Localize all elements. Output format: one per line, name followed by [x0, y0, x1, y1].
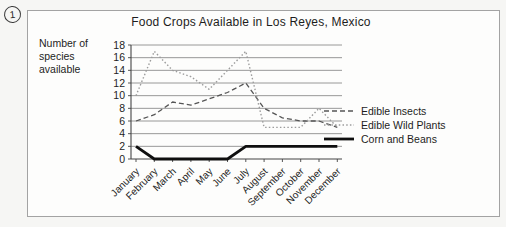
y-tick-label: 2 — [119, 140, 125, 152]
y-tick-label: 12 — [113, 77, 125, 89]
chart-svg: 024681012141618JanuaryFebruaryMarchApril… — [28, 11, 499, 216]
legend-label-corn-and-beans: Corn and Beans — [361, 133, 437, 145]
item-number-badge: 1 — [3, 5, 22, 24]
y-tick-label: 6 — [119, 115, 125, 127]
y-tick-label: 4 — [119, 127, 125, 139]
legend-label-edible-wild-plants: Edible Wild Plants — [361, 119, 446, 131]
series-line-corn-and-beans — [136, 146, 337, 159]
y-tick-label: 8 — [119, 102, 125, 114]
figure-box: Food Crops Available in Los Reyes, Mexic… — [27, 10, 500, 217]
x-tick-label-april: April — [174, 166, 196, 188]
y-tick-label: 14 — [113, 64, 125, 76]
y-tick-label: 16 — [113, 51, 125, 63]
x-tick-label-june: June — [210, 165, 233, 188]
y-tick-label: 18 — [113, 39, 125, 51]
y-tick-label: 0 — [119, 153, 125, 165]
y-tick-label: 10 — [113, 89, 125, 101]
series-line-edible-wild-plants — [136, 51, 337, 127]
legend-label-edible-insects: Edible Insects — [361, 105, 426, 117]
